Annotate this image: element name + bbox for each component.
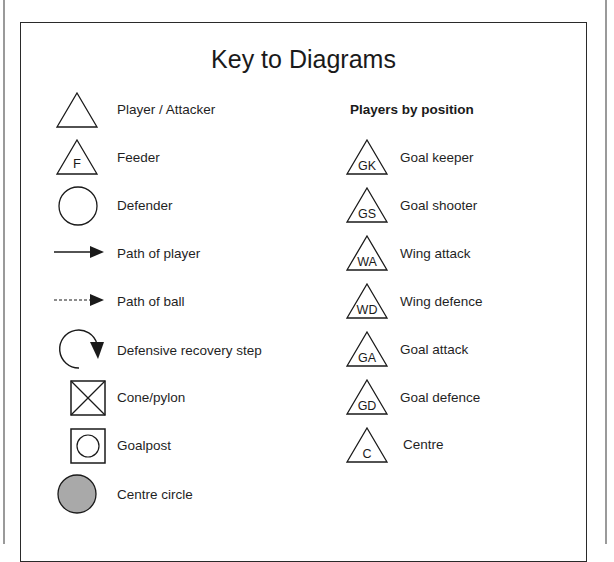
position-triangle-wa-icon: WA: [345, 234, 389, 272]
legend-label-defensive-recovery-step: Defensive recovery step: [117, 343, 262, 358]
svg-text:WA: WA: [357, 255, 377, 269]
curved-arrow-icon: [57, 322, 107, 372]
legend-label-centre-circle: Centre circle: [117, 487, 193, 502]
position-triangle-wd-icon: WD: [345, 282, 389, 320]
legend-label-goalpost: Goalpost: [117, 438, 171, 453]
legend-label-defender: Defender: [117, 198, 173, 213]
legend-label-path-of-player: Path of player: [117, 246, 200, 261]
legend-label-player-attacker: Player / Attacker: [117, 102, 215, 117]
boxed-circle-icon: [70, 428, 106, 464]
position-triangle-gk-icon: GK: [345, 138, 389, 176]
svg-text:GK: GK: [358, 159, 377, 173]
triangle-icon: [55, 91, 99, 129]
position-triangle-gs-icon: GS: [345, 186, 389, 224]
page-frame-left: [3, 0, 5, 544]
position-label-wing-defence: Wing defence: [400, 294, 483, 309]
position-label-goal-shooter: Goal shooter: [400, 198, 477, 213]
position-label-goal-defence: Goal defence: [400, 390, 480, 405]
position-label-wing-attack: Wing attack: [400, 246, 471, 261]
circle-icon: [57, 185, 99, 227]
svg-text:WD: WD: [357, 303, 378, 317]
page-frame-right: [605, 0, 607, 544]
position-triangle-c-icon: C: [345, 426, 389, 464]
legend-label-path-of-ball: Path of ball: [117, 294, 185, 309]
position-label-centre: Centre: [403, 437, 444, 452]
triangle-f-icon: F: [55, 138, 99, 176]
solid-arrow-icon: [53, 244, 107, 260]
legend-label-feeder: Feeder: [117, 150, 160, 165]
position-label-goal-keeper: Goal keeper: [400, 150, 474, 165]
position-triangle-ga-icon: GA: [345, 330, 389, 368]
position-label-goal-attack: Goal attack: [400, 342, 468, 357]
page-title: Key to Diagrams: [21, 45, 586, 74]
svg-text:GD: GD: [358, 399, 377, 413]
position-triangle-gd-icon: GD: [345, 378, 389, 416]
svg-text:GA: GA: [358, 351, 377, 365]
players-by-position-heading: Players by position: [350, 102, 474, 117]
legend-label-cone-pylon: Cone/pylon: [117, 390, 185, 405]
crossed-box-icon: [70, 380, 106, 416]
svg-text:C: C: [362, 447, 371, 461]
svg-text:GS: GS: [358, 207, 376, 221]
dashed-arrow-icon: [53, 292, 107, 308]
filled-circle-icon: [56, 473, 98, 515]
svg-text:F: F: [73, 156, 81, 171]
